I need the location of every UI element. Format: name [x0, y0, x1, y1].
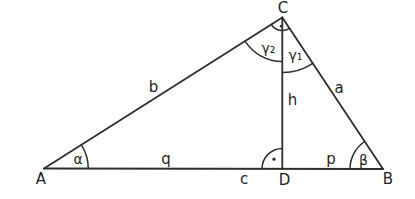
vertex-d-label: D — [279, 171, 291, 189]
right-triangle-altitude-figure: C A B D b a c h q p α β γ₂ γ₁ — [0, 0, 415, 199]
vertex-a-label: A — [36, 170, 47, 188]
side-a-label: a — [334, 79, 343, 97]
side-b-line — [44, 18, 282, 169]
right-angle-dot-d — [272, 158, 275, 161]
alpha-angle-label: α — [73, 151, 82, 167]
beta-angle-label: β — [359, 152, 368, 168]
segment-q-label: q — [161, 150, 171, 168]
geometry-diagram: C A B D b a c h q p α β γ₂ γ₁ — [0, 0, 415, 199]
vertex-b-label: B — [383, 170, 393, 188]
gamma1-angle-arc — [282, 63, 313, 72]
side-b-label: b — [149, 78, 159, 96]
right-angle-dot-c — [280, 25, 283, 28]
vertex-c-label: C — [278, 0, 288, 17]
side-a-line — [282, 18, 383, 170]
side-c-base-line — [44, 169, 383, 170]
right-angle-arc-d — [262, 148, 282, 168]
altitude-h-label: h — [288, 91, 298, 109]
side-c-label: c — [240, 170, 248, 188]
gamma2-angle-label: γ₂ — [262, 40, 276, 56]
segment-p-label: p — [326, 150, 336, 168]
gamma1-angle-label: γ₁ — [289, 47, 303, 63]
